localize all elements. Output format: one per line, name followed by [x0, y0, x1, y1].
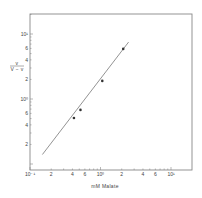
y-tick-label: 2: [25, 76, 28, 82]
data-point: [122, 48, 125, 51]
plot-border: [30, 14, 192, 170]
y-tick-label: 6: [25, 45, 28, 51]
x-tick-label: 10⁰: [97, 171, 105, 177]
hill-plot-chart: 10⁻¹24610⁰24610¹ 24610⁰24610¹ mM Malate …: [0, 0, 202, 198]
x-tick-label: 2: [120, 171, 123, 177]
x-tick-label: 4: [142, 171, 145, 177]
y-tick-label: 2: [25, 141, 28, 147]
svg-text:v: v: [16, 60, 19, 66]
y-tick-label: 4: [25, 122, 28, 128]
x-tick-label: 2: [50, 171, 53, 177]
svg-text:V − v: V − v: [10, 66, 23, 72]
y-tick-label: 6: [25, 110, 28, 116]
x-tick-label: 10¹: [167, 171, 175, 177]
y-axis-ticks: 24610⁰24610¹: [20, 14, 33, 164]
x-tick-label: 6: [154, 171, 157, 177]
y-tick-label: 10¹: [21, 31, 29, 37]
x-axis-ticks: 10⁻¹24610⁰24610¹: [25, 167, 175, 177]
data-point: [101, 80, 104, 83]
y-tick-label: 10⁰: [20, 96, 28, 102]
plot-frame: [30, 14, 192, 170]
data-point: [79, 109, 82, 112]
x-tick-label: 10⁻¹: [25, 171, 36, 177]
data-point: [73, 117, 76, 120]
x-tick-label: 6: [83, 171, 86, 177]
y-axis-title: vV − v: [10, 60, 24, 73]
data-series: [42, 42, 128, 154]
x-tick-label: 4: [71, 171, 74, 177]
y-tick-label: 4: [25, 57, 28, 63]
x-axis-title: mM Malate: [91, 183, 118, 189]
fit-line: [42, 42, 128, 154]
